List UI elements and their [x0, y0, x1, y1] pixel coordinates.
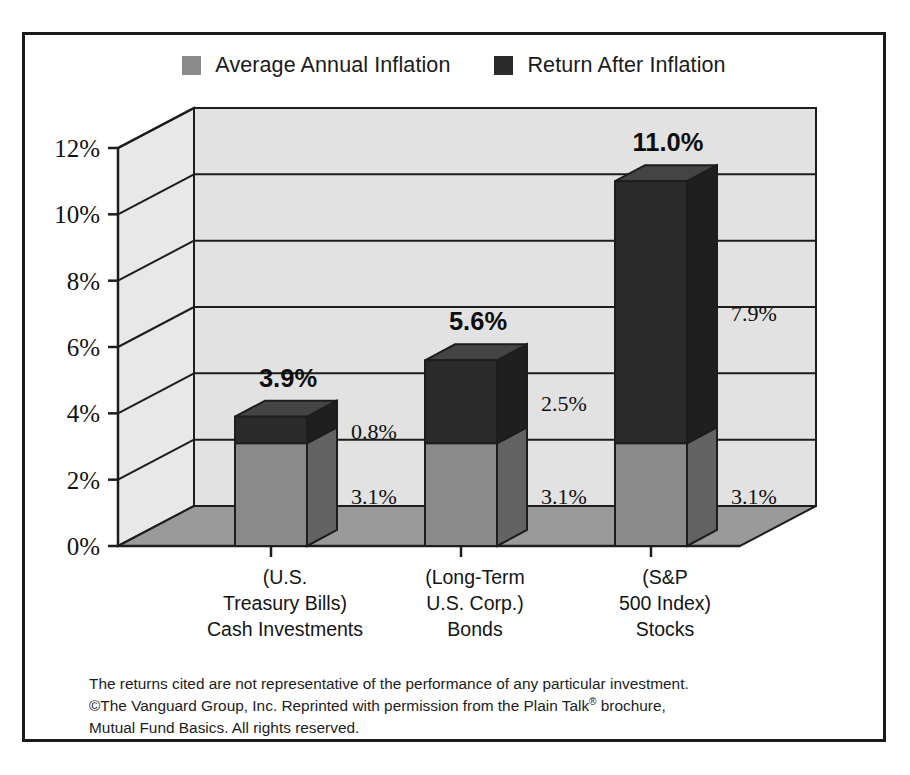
category-label-1-line-1: U.S. Corp.)	[426, 592, 524, 614]
chart-frame: Average Annual Inflation Return After In…	[22, 32, 886, 742]
segment-label-inflation-2: 3.1%	[731, 484, 777, 509]
category-label-0-line-0: (U.S.	[263, 566, 307, 588]
ytick-label-6%: 6%	[67, 334, 100, 361]
bar-front-return-2	[615, 181, 687, 443]
segment-label-inflation-1: 3.1%	[541, 484, 587, 509]
category-label-2-line-0: (S&P	[642, 566, 688, 588]
bar-group-stocks[interactable]	[615, 165, 717, 546]
footnote-line-2: ©The Vanguard Group, Inc. Reprinted with…	[89, 695, 829, 717]
ytick-label-2%: 2%	[67, 467, 100, 494]
category-label-0-line-1: Treasury Bills)	[223, 592, 347, 614]
segment-label-return-1: 2.5%	[541, 391, 587, 416]
bar-side-inflation-1	[497, 427, 527, 546]
bar-side-inflation-2	[687, 427, 717, 546]
ytick-label-0%: 0%	[67, 533, 100, 560]
chart-svg: 0%2%4%6%8%10%12%3.9%3.1%0.8%(U.S.Treasur…	[25, 35, 889, 745]
bar-front-inflation-1	[425, 443, 497, 546]
bar-front-inflation-0	[235, 443, 307, 546]
bar-total-label-1: 5.6%	[449, 307, 507, 335]
category-label-2-line-2: Stocks	[636, 618, 695, 640]
bar-side-return-1	[497, 344, 527, 443]
bar-side-return-2	[687, 165, 717, 443]
segment-label-return-2: 7.9%	[731, 301, 777, 326]
ytick-label-8%: 8%	[67, 268, 100, 295]
category-label-2-line-1: 500 Index)	[619, 592, 711, 614]
bar-side-inflation-0	[307, 427, 337, 546]
ytick-label-4%: 4%	[67, 400, 100, 427]
bar-total-label-2: 11.0%	[633, 128, 704, 156]
bar-front-return-1	[425, 360, 497, 443]
ytick-label-10%: 10%	[54, 201, 100, 228]
bar-group-bonds[interactable]	[425, 344, 527, 546]
segment-label-inflation-0: 3.1%	[351, 484, 397, 509]
category-label-0-line-2: Cash Investments	[207, 618, 363, 640]
stacked-3d-bar-chart: 0%2%4%6%8%10%12%3.9%3.1%0.8%(U.S.Treasur…	[25, 35, 889, 745]
bar-front-inflation-2	[615, 443, 687, 546]
bar-front-return-0	[235, 417, 307, 444]
footnote-line-2-text-b: brochure,	[596, 697, 665, 714]
bar-total-label-0: 3.9%	[259, 364, 317, 392]
footnote: The returns cited are not representative…	[89, 673, 829, 739]
footnote-line-1: The returns cited are not representative…	[89, 673, 829, 695]
segment-label-return-0: 0.8%	[351, 419, 397, 444]
bar-group-cash-investments[interactable]	[235, 401, 337, 546]
footnote-line-2-text-a: ©The Vanguard Group, Inc. Reprinted with…	[89, 697, 589, 714]
footnote-line-3: Mutual Fund Basics. All rights reserved.	[89, 717, 829, 739]
category-label-1-line-2: Bonds	[447, 618, 503, 640]
category-label-1-line-0: (Long-Term	[425, 566, 525, 588]
ytick-label-12%: 12%	[54, 135, 100, 162]
